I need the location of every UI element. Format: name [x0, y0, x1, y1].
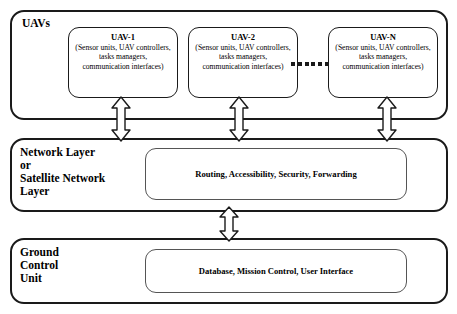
double-arrow-uavn-to-network	[376, 96, 398, 142]
uav-node-2-description: (Sensor units, UAV controllers, tasks ma…	[195, 43, 291, 71]
uav-node-1-description: (Sensor units, UAV controllers, tasks ma…	[75, 43, 171, 71]
uav-node-2: UAV-2 (Sensor units, UAV controllers, ta…	[188, 27, 298, 98]
network-layer-label: Network Layer or Satellite Network Layer	[20, 146, 105, 198]
diagram-canvas: UAVs UAV-1 (Sensor units, UAV controller…	[0, 0, 457, 314]
ground-control-functions-box: Database, Mission Control, User Interfac…	[145, 249, 407, 293]
uav-node-n-description: (Sensor units, UAV controllers, tasks ma…	[335, 43, 431, 71]
network-layer-functions-box: Routing, Accessibility, Security, Forwar…	[145, 148, 407, 200]
ground-control-layer-label: Ground Control Unit	[20, 246, 59, 285]
double-arrow-network-to-ground	[218, 206, 240, 242]
double-arrow-uav2-to-network	[228, 96, 250, 142]
uav-node-1-name: UAV-1	[111, 32, 135, 42]
uav-node-n: UAV-N (Sensor units, UAV controllers, ta…	[328, 27, 438, 98]
ellipsis-dots-icon	[291, 60, 329, 68]
double-arrow-uav1-to-network	[110, 96, 132, 142]
uav-node-1: UAV-1 (Sensor units, UAV controllers, ta…	[68, 27, 178, 98]
uav-node-2-name: UAV-2	[231, 32, 255, 42]
uav-layer-label: UAVs	[22, 17, 50, 30]
uav-node-n-name: UAV-N	[370, 32, 396, 42]
